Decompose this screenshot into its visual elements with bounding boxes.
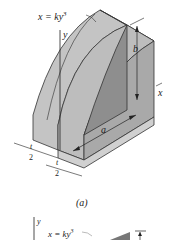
fig-b-y-label: y [36,217,41,226]
fig-b-shaded-area [110,232,130,240]
dim-t2-denominator: 2 [55,169,59,178]
fig-b-curve-label: x = ky3 [47,228,74,239]
figure-caption: (a) [76,197,88,209]
y-axis-label: y [62,29,68,40]
dim-t1-denominator: 2 [29,153,33,162]
dim-t2-numerator: t [56,158,59,167]
dim-b-label: b [133,43,138,54]
solid-body [33,10,154,168]
dim-t1-numerator: t [30,142,33,151]
figure-canvas: y x = ky3 b x a t 2 t 2 (a) y x = ky3 [0,0,169,240]
curve-label: x = ky3 [37,10,67,22]
x-axis-label: x [157,87,163,98]
dim-a-label: a [101,124,106,135]
